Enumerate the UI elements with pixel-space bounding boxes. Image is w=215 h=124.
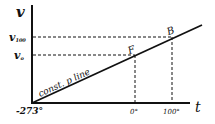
const-p-line: [32, 25, 202, 103]
x-axis-label: t: [195, 99, 201, 115]
volume-temperature-diagram: v t v100 vo 0° 100° -273° F B const. p l…: [0, 0, 215, 124]
v0-label: vo: [14, 49, 24, 62]
point-b-label: B: [164, 24, 176, 37]
const-p-line-label: const. p line: [37, 67, 92, 99]
y-axis-label: v: [16, 3, 25, 21]
t100-label: 100°: [163, 108, 180, 116]
t0-label: 0°: [130, 108, 138, 116]
v100-label: v100: [9, 31, 26, 44]
point-f-label: F: [125, 43, 137, 56]
origin-label: -273°: [16, 106, 43, 116]
